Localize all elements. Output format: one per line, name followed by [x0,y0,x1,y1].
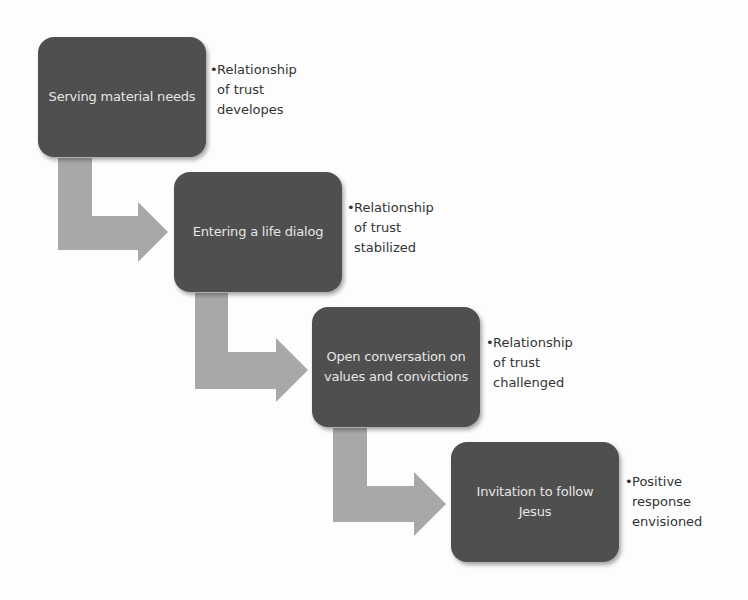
step-note: • Relationship of trust developes [217,60,337,120]
note-line: developes [217,100,337,120]
step-label: Serving material needs [49,87,196,107]
bullet-icon: • [347,198,355,218]
process-diagram: Serving material needs • Relationship of… [0,0,748,600]
note-line: challenged [493,373,613,393]
bullet-icon: • [210,60,218,80]
step-box-open-conversation: Open conversation on values and convicti… [312,307,480,427]
note-line: Positive [632,472,748,492]
step-note: • Relationship of trust challenged [493,333,613,393]
step-note: • Relationship of trust stabilized [354,198,474,258]
step-label: Open conversation on values and convicti… [322,347,470,387]
note-line: of trust [217,80,337,100]
step-note: • Positive response envisioned [632,472,748,532]
note-line: response [632,492,748,512]
note-line: envisioned [632,512,748,532]
step-box-serving-material-needs: Serving material needs [38,37,206,157]
bent-arrow-icon [58,158,168,262]
bent-arrow-icon [333,428,446,536]
step-label: Invitation to follow Jesus [461,482,609,522]
step-box-invitation-to-follow-jesus: Invitation to follow Jesus [451,442,619,562]
bent-arrow-icon [195,293,308,402]
bullet-icon: • [486,333,494,353]
note-line: stabilized [354,238,474,258]
note-line: Relationship [354,198,474,218]
bullet-icon: • [625,472,633,492]
note-line: Relationship [493,333,613,353]
step-label: Entering a life dialog [193,222,323,242]
note-line: Relationship [217,60,337,80]
note-line: of trust [354,218,474,238]
step-box-entering-a-life-dialog: Entering a life dialog [174,172,342,292]
note-line: of trust [493,353,613,373]
